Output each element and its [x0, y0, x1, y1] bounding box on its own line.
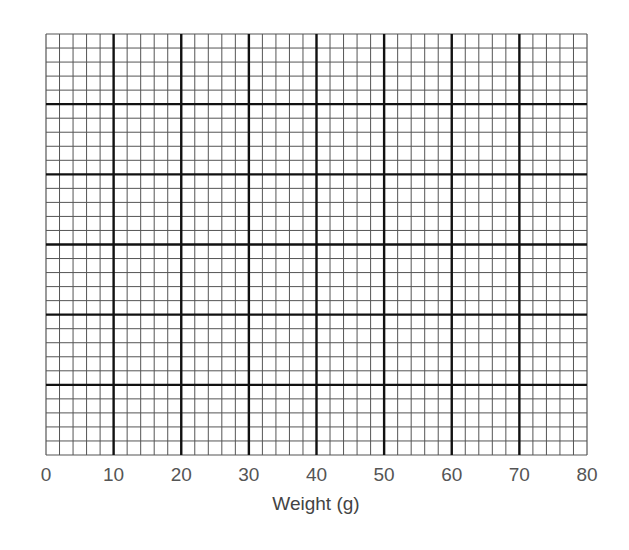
x-tick-label: 0 [41, 464, 52, 486]
x-tick-label: 40 [306, 464, 327, 486]
x-tick-label: 30 [238, 464, 259, 486]
x-tick-label: 20 [171, 464, 192, 486]
x-axis-label: Weight (g) [272, 493, 359, 515]
x-tick-label: 50 [374, 464, 395, 486]
x-tick-label: 80 [576, 464, 597, 486]
x-tick-label: 70 [509, 464, 530, 486]
x-tick-label: 10 [103, 464, 124, 486]
x-tick-label: 60 [441, 464, 462, 486]
